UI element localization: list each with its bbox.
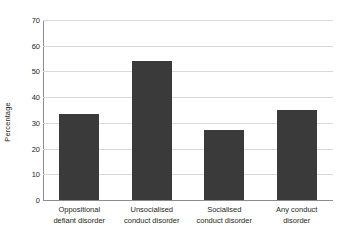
bar-chart: Percentage 706050403020100 Oppositionald… <box>0 0 340 244</box>
bar-slot <box>43 20 116 200</box>
y-tick-label: 30 <box>20 118 40 127</box>
x-tick-label: Unsocialisedconduct disorder <box>116 205 189 226</box>
bar[interactable] <box>59 114 99 200</box>
x-tick-label: Any conductdisorder <box>261 205 334 226</box>
y-axis-tick-labels: 706050403020100 <box>20 14 40 206</box>
x-axis-tick-labels: Oppositionaldefiant disorderUnsocialised… <box>43 205 333 226</box>
bar-slot <box>188 20 261 200</box>
x-tick-label-line: Oppositional <box>43 205 116 216</box>
bar-slot <box>261 20 334 200</box>
bar[interactable] <box>277 110 317 201</box>
bar[interactable] <box>204 130 244 200</box>
y-tick-label: 20 <box>20 144 40 153</box>
bar-series <box>43 20 333 200</box>
bar[interactable] <box>132 61 172 200</box>
x-tick-label-line: Any conduct <box>261 205 334 216</box>
x-tick-label-line: disorder <box>261 216 334 227</box>
y-axis-title: Percentage <box>0 0 14 244</box>
y-tick-label: 0 <box>20 196 40 205</box>
x-tick-label-line: conduct disorder <box>188 216 261 227</box>
x-tick-label-line: Unsocialised <box>116 205 189 216</box>
x-tick-label-line: Socialised <box>188 205 261 216</box>
y-tick-label: 50 <box>20 67 40 76</box>
x-tick-label: Socialisedconduct disorder <box>188 205 261 226</box>
plot-area <box>43 20 333 200</box>
x-tick-label-line: conduct disorder <box>116 216 189 227</box>
axis-baseline <box>43 200 333 201</box>
y-tick-label: 10 <box>20 170 40 179</box>
y-tick-label: 70 <box>20 16 40 25</box>
y-tick-label: 60 <box>20 41 40 50</box>
x-tick-label: Oppositionaldefiant disorder <box>43 205 116 226</box>
x-tick-label-line: defiant disorder <box>43 216 116 227</box>
bar-slot <box>116 20 189 200</box>
y-tick-label: 40 <box>20 93 40 102</box>
